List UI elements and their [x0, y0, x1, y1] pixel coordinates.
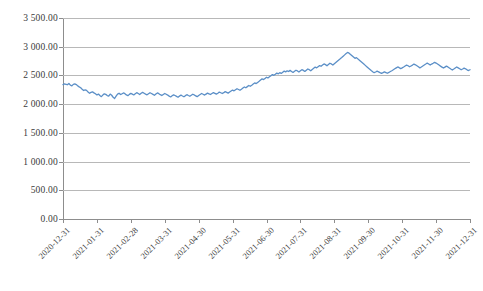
- series-line-index: [63, 52, 470, 98]
- y-axis-tick: [59, 75, 63, 76]
- series-layer: [0, 0, 483, 291]
- x-axis-tick: [300, 219, 301, 223]
- x-axis-tick: [334, 219, 335, 223]
- x-axis-tick: [63, 219, 64, 223]
- y-axis-tick: [59, 162, 63, 163]
- x-axis-tick: [199, 219, 200, 223]
- x-axis-tick: [233, 219, 234, 223]
- x-axis-tick: [131, 219, 132, 223]
- x-axis-tick: [470, 219, 471, 223]
- y-axis-tick: [59, 190, 63, 191]
- y-axis-tick: [59, 47, 63, 48]
- x-axis-tick: [436, 219, 437, 223]
- y-axis-tick: [59, 104, 63, 105]
- x-axis-tick: [165, 219, 166, 223]
- x-axis-tick: [368, 219, 369, 223]
- x-axis-tick: [402, 219, 403, 223]
- line-chart: 3 500.003 000.002 500.002 000.001 500.00…: [0, 0, 483, 291]
- x-axis-tick: [267, 219, 268, 223]
- y-axis-tick: [59, 133, 63, 134]
- y-axis-tick: [59, 18, 63, 19]
- x-axis-tick: [97, 219, 98, 223]
